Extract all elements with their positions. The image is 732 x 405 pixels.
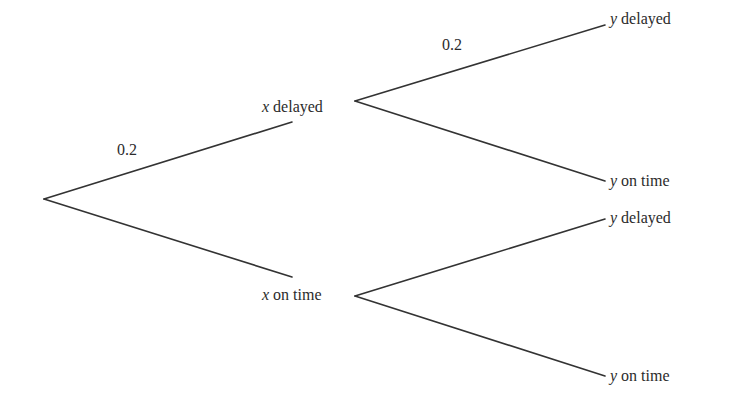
- outcome-text: delayed: [617, 10, 671, 27]
- node-y-on-time-given-x-on-time: y on time: [610, 367, 670, 385]
- outcome-text: on time: [269, 286, 321, 303]
- probability-y-delayed-given-x-delayed: 0.2: [442, 36, 462, 54]
- node-y-on-time-given-x-delayed: y on time: [610, 172, 670, 190]
- outcome-text: delayed: [617, 209, 671, 226]
- outcome-text: on time: [617, 172, 669, 189]
- branch-x-on-time-to-y-on-time: [355, 296, 605, 376]
- branch-x-delayed-to-y-delayed: [355, 25, 605, 101]
- probability-x-delayed: 0.2: [117, 141, 137, 159]
- branch-root-to-x-on-time: [44, 199, 292, 277]
- node-x-on-time: x on time: [262, 286, 322, 304]
- probability-tree: [0, 0, 732, 405]
- outcome-text: delayed: [269, 98, 323, 115]
- outcome-text: on time: [617, 367, 669, 384]
- branch-x-on-time-to-y-delayed: [355, 219, 605, 296]
- branch-x-delayed-to-y-on-time: [355, 101, 605, 181]
- node-y-delayed-given-x-delayed: y delayed: [610, 10, 671, 28]
- node-y-delayed-given-x-on-time: y delayed: [610, 209, 671, 227]
- branch-root-to-x-delayed: [44, 122, 292, 199]
- node-x-delayed: x delayed: [262, 98, 323, 116]
